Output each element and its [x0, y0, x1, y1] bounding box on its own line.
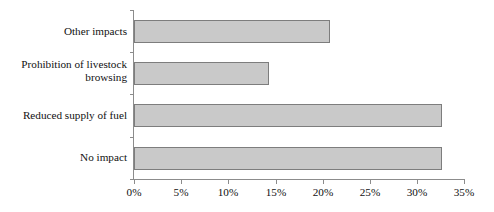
x-axis-tick: [323, 179, 324, 184]
y-axis-tick: [130, 10, 134, 11]
category-axis-labels: Other impacts Prohibition of livestock b…: [0, 10, 131, 179]
x-axis-tick: [276, 179, 277, 184]
category-label-reduced-supply-of-fuel: Reduced supply of fuel: [0, 109, 127, 122]
bar-reduced-supply-of-fuel: [134, 104, 442, 127]
x-axis-tick: [370, 179, 371, 184]
plot-area: [134, 10, 464, 179]
category-label-other-impacts: Other impacts: [0, 25, 127, 38]
x-axis-tick: [417, 179, 418, 184]
x-axis-tick: [228, 179, 229, 184]
x-axis-label-35: 35%: [434, 186, 494, 199]
x-axis-line: [134, 179, 465, 180]
bar-other-impacts: [134, 20, 330, 43]
y-axis-tick: [130, 94, 134, 95]
bar-chart: Other impacts Prohibition of livestock b…: [0, 0, 494, 212]
y-axis-tick: [130, 52, 134, 53]
x-axis-tick: [464, 179, 465, 184]
category-label-no-impact: No impact: [0, 151, 127, 164]
bar-prohibition-of-livestock-browsing: [134, 62, 269, 85]
bar-no-impact: [134, 147, 442, 170]
category-label-prohibition-of-livestock-browsing: Prohibition of livestock browsing: [0, 58, 127, 83]
x-axis-tick: [181, 179, 182, 184]
x-axis-tick: [134, 179, 135, 184]
y-axis-tick: [130, 137, 134, 138]
